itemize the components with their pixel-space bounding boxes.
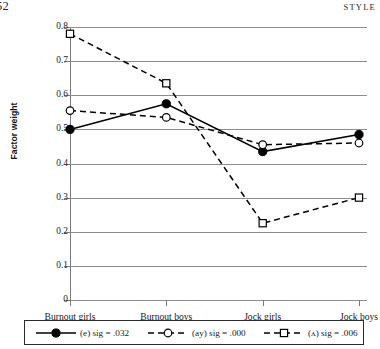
legend-marker <box>52 328 60 336</box>
legend-sample-open-square <box>263 326 305 340</box>
legend-marker <box>280 329 287 336</box>
legend-item-3[interactable]: (ʌ) sig = .006 <box>263 321 358 344</box>
legend-marker <box>164 329 172 337</box>
data-point-marker <box>259 141 267 149</box>
data-point-marker <box>66 125 74 133</box>
legend-sample-open-circle <box>147 326 189 340</box>
data-point-marker <box>163 114 171 122</box>
data-point-marker <box>66 30 73 37</box>
page-number: 52 <box>0 0 9 14</box>
data-point-marker <box>355 130 363 138</box>
data-point-marker <box>355 139 363 147</box>
data-point-marker <box>259 220 266 227</box>
chart-legend: (e) sig = .032(ay) sig = .000(ʌ) sig = .… <box>24 320 364 345</box>
data-point-marker <box>162 100 170 108</box>
data-point-marker <box>355 194 362 201</box>
series-layer <box>0 18 380 349</box>
running-head: 52 STYLE <box>0 0 380 18</box>
legend-sample-filled-circle <box>35 326 77 340</box>
legend-label: (ay) sig = .000 <box>192 328 246 338</box>
legend-item-2[interactable]: (ay) sig = .000 <box>147 321 246 344</box>
series-1 <box>66 100 363 156</box>
data-point-marker <box>163 80 170 87</box>
series-line <box>70 104 359 152</box>
data-point-marker <box>66 107 74 115</box>
legend-item-1[interactable]: (e) sig = .032 <box>35 321 129 344</box>
line-chart-figure: Factor weight 00.10.20.30.40.50.60.70.8 … <box>0 18 380 349</box>
running-head-title: STYLE <box>344 2 376 12</box>
legend-label: (e) sig = .032 <box>80 328 129 338</box>
legend-label: (ʌ) sig = .006 <box>308 328 358 338</box>
